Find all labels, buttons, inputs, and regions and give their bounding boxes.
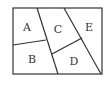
- outer-rectangle: [13, 8, 102, 74]
- region-label-b: B: [28, 53, 36, 66]
- region-label-d: D: [70, 55, 79, 68]
- region-label-e: E: [85, 21, 93, 34]
- divider-c-d: [52, 38, 82, 54]
- region-label-c: C: [54, 23, 62, 36]
- region-label-a: A: [22, 21, 32, 34]
- partition-diagram: A B C D E: [0, 0, 107, 89]
- divider-a-b: [13, 40, 46, 45]
